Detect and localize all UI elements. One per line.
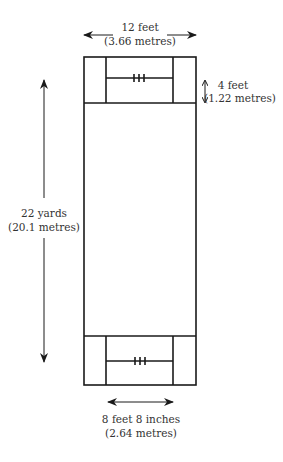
return-crease-width-label-line1: 8 feet 8 inches xyxy=(102,413,180,425)
top-width-label-line2: (3.66 metres) xyxy=(104,35,176,47)
pitch xyxy=(84,57,196,385)
crease-depth-label-line1: 4 feet xyxy=(218,79,249,91)
return-crease-width-label-line2: (2.64 metres) xyxy=(105,427,177,439)
pitch-length-dimension: 22 yards (20.1 metres) xyxy=(8,80,80,362)
top-width-label-line1: 12 feet xyxy=(121,21,159,33)
pitch-length-label-line1: 22 yards xyxy=(21,207,67,219)
top-width-dimension: 12 feet (3.66 metres) xyxy=(84,21,196,47)
return-crease-width-dimension: 8 feet 8 inches (2.64 metres) xyxy=(102,402,180,439)
crease-depth-dimension: 4 feet (1.22 metres) xyxy=(204,79,276,104)
crease-depth-label-line2: (1.22 metres) xyxy=(204,92,276,104)
cricket-pitch-diagram: 12 feet (3.66 metres) 4 feet (1.22 metre… xyxy=(0,0,283,462)
pitch-length-label-line2: (20.1 metres) xyxy=(8,221,80,233)
